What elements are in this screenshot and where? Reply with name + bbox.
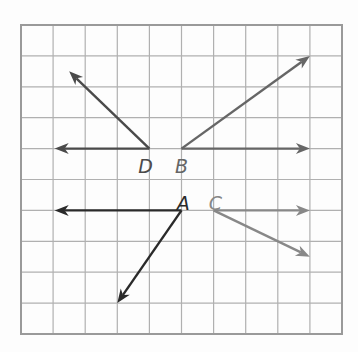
vertex-label-c: C bbox=[209, 192, 223, 214]
ray-a bbox=[123, 210, 182, 294]
ray-b bbox=[182, 62, 302, 149]
angles-grid-figure: DBAC bbox=[0, 0, 358, 352]
vertex-label-b: B bbox=[175, 155, 188, 177]
arrowhead-icon bbox=[295, 56, 310, 69]
ray-d bbox=[76, 78, 149, 148]
vertex-label-a: A bbox=[175, 192, 190, 214]
vertex-labels: DBAC bbox=[138, 155, 223, 214]
vertex-label-d: D bbox=[138, 155, 153, 177]
arrowhead-icon bbox=[117, 288, 129, 303]
ray-c bbox=[214, 210, 301, 252]
